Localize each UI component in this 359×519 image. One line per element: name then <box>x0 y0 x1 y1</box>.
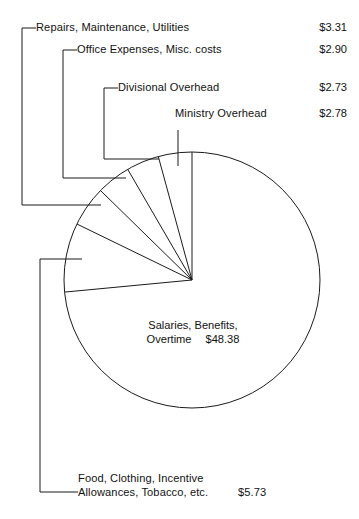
pie-label-salaries-value: $48.38 <box>206 333 240 345</box>
pie-divider-3 <box>101 191 192 280</box>
pie-label-salaries-line1: Salaries, Benefits, <box>148 319 237 331</box>
leader-lines <box>22 28 178 492</box>
callout-value-divisional: $2.73 <box>319 81 347 95</box>
callout-value-repairs: $3.31 <box>319 21 347 35</box>
callout-label-divisional: Divisional Overhead <box>118 81 219 95</box>
pie-chart-figure: Repairs, Maintenance, Utilities $3.31 Of… <box>0 0 359 519</box>
leader-line-food <box>40 259 82 492</box>
callout-label-repairs: Repairs, Maintenance, Utilities <box>36 21 189 35</box>
pie-divider-5 <box>65 280 192 292</box>
callout-label-food-line1: Food, Clothing, Incentive <box>78 472 204 486</box>
pie-divider-2 <box>128 169 192 280</box>
leader-line-divisional <box>104 88 159 159</box>
pie-chart-graphic <box>0 0 359 519</box>
callout-value-ministry: $2.78 <box>319 107 347 121</box>
callout-value-office: $2.90 <box>319 43 347 57</box>
pie-label-salaries-line2-text: Overtime <box>147 333 192 345</box>
pie-divider-1 <box>158 157 192 281</box>
pie-label-salaries: Salaries, Benefits, Overtime$48.38 <box>123 318 263 346</box>
pie-slice-dividers <box>65 152 192 292</box>
callout-label-food-line2: Allowances, Tobacco, etc. <box>78 486 208 500</box>
callout-value-food: $5.73 <box>238 486 266 500</box>
callout-label-office: Office Expenses, Misc. costs <box>77 43 222 57</box>
pie-divider-4 <box>77 224 192 280</box>
pie-label-salaries-line2: Overtime$48.38 <box>123 332 263 346</box>
callout-label-ministry: Ministry Overhead <box>175 107 267 121</box>
